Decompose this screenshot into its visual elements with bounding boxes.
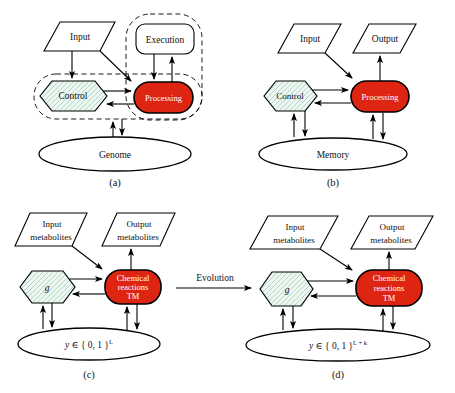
input-metabolites-line1-c: Input (43, 219, 62, 229)
tm-line3-c: TM (127, 291, 140, 301)
figure-page: Input Execution Control Processing Genom… (0, 0, 455, 393)
output-metabolites-line1-d: Output (379, 222, 405, 232)
output-metabolites-line2-d: metabolites (370, 235, 412, 245)
figure-d: Input metabolites Output metabolites g C… (246, 216, 433, 381)
output-metabolites-line1-c: Output (126, 219, 152, 229)
memory-label-b: Memory (317, 150, 350, 160)
input-label-b: Input (300, 34, 320, 44)
genome-label-a: Genome (99, 150, 131, 160)
figure-b: Input Output Control Processing Memory (… (259, 24, 416, 189)
figure-canvas: Input Execution Control Processing Genom… (0, 0, 455, 393)
arrow-c-input-to-tm (72, 246, 102, 269)
genome-label-c: g (45, 283, 50, 293)
arrow-d-input-to-tm (320, 249, 352, 270)
control-label-a: Control (58, 91, 87, 101)
figure-c: Input metabolites Output metabolites g C… (15, 213, 175, 381)
caption-d: (d) (332, 369, 345, 381)
input-label-a: Input (70, 32, 90, 42)
state-label-c: y ∈ { 0, 1 }L (64, 338, 113, 350)
input-metabolites-line2-d: metabolites (273, 235, 315, 245)
execution-label-a: Execution (146, 35, 185, 45)
input-metabolites-line2-c: metabolites (30, 232, 72, 242)
genome-label-d: g (285, 285, 290, 295)
tm-line3-d: TM (383, 293, 396, 303)
output-label-b: Output (372, 34, 399, 44)
output-metabolites-line2-c: metabolites (117, 232, 159, 242)
input-metabolites-line1-d: Input (286, 222, 305, 232)
tm-line2-d: reactions (374, 283, 405, 293)
caption-b: (b) (327, 177, 340, 189)
processing-label-b: Processing (362, 92, 400, 102)
control-label-b: Control (276, 91, 304, 101)
arrow-b-input-to-processing (325, 53, 352, 78)
caption-c: (c) (83, 369, 95, 381)
processing-label-a: Processing (145, 93, 183, 103)
caption-a: (a) (109, 177, 121, 189)
evolution-transition: Evolution (176, 273, 251, 288)
figure-a: Input Execution Control Processing Genom… (34, 14, 202, 189)
tm-line1-d: Chemical (373, 273, 406, 283)
evolution-label: Evolution (196, 273, 234, 283)
